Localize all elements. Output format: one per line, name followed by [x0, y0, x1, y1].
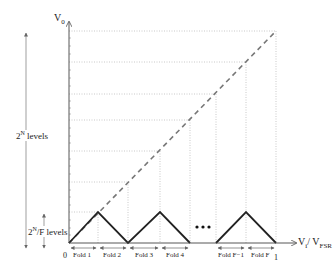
y-axis-label: V0 [54, 12, 65, 26]
fold-label-3: Fold 3 [135, 251, 153, 259]
ellipsis-dots [195, 225, 210, 228]
fold-label-2: Fold 2 [103, 251, 121, 259]
x-axis-label: Vi/ VFSR [298, 236, 332, 250]
total-levels-label: 2N levels [16, 130, 48, 141]
ideal-transfer-dashed-line [69, 31, 276, 243]
fold-levels-label: 2N/F levels [28, 226, 68, 237]
fold-label-f-minus-1: Fold F−1 [218, 251, 244, 259]
x-tick-zero: 0 [63, 251, 67, 260]
fold-label-4: Fold 4 [166, 251, 184, 259]
x-tick-one: 1 [274, 253, 278, 262]
fold-waveform-1 [69, 212, 190, 243]
fold-label-1: Fold 1 [73, 251, 91, 259]
fold-label-f: Fold F [251, 251, 269, 259]
